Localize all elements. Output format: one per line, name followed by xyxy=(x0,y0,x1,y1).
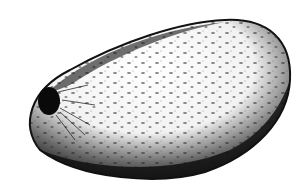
hilum-spot xyxy=(38,87,60,115)
seed-drawing xyxy=(0,0,308,196)
